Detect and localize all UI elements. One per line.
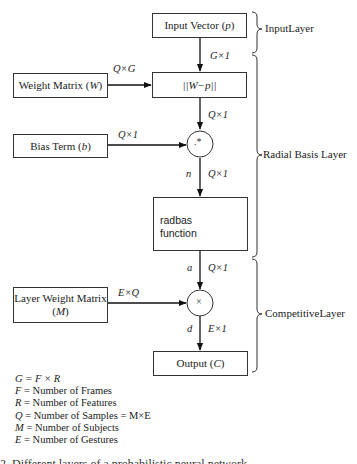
- layer-label-competitive: CompetitiveLayer: [265, 307, 345, 319]
- radbas-line2: function: [160, 227, 197, 240]
- legend-item: M = Number of Subjects: [15, 422, 151, 434]
- legend-item: F = Number of Frames: [15, 385, 151, 397]
- legend-text: = F × R: [23, 373, 61, 384]
- bias-term-box: Bias Term (b): [13, 134, 108, 158]
- legend-item: E = Number of Gestures: [15, 434, 151, 446]
- signal-a: a: [187, 262, 192, 273]
- figure-caption-cutoff: 2. Different layers of a probabilistic n…: [0, 457, 247, 464]
- paren: ): [231, 19, 235, 32]
- paren: ): [221, 357, 225, 370]
- variable-legend: G = F × R F = Number of Frames R = Numbe…: [15, 373, 151, 446]
- legend-text: = Number of Gestures: [21, 434, 117, 445]
- input-vector-label: Input Vector (: [164, 19, 225, 32]
- legend-var: M: [15, 422, 24, 433]
- legend-text: = Number of Subjects: [24, 422, 119, 433]
- layer-label-input: InputLayer: [265, 22, 314, 34]
- legend-var: G: [15, 373, 23, 384]
- distance-label: ||W−p||: [182, 79, 216, 92]
- output-var: C: [213, 357, 220, 370]
- dim-input-to-distance: G×1: [210, 50, 230, 61]
- layer-weight-matrix-var: M: [56, 305, 65, 317]
- signal-d: d: [187, 323, 192, 334]
- dim-bias-to-mult: Q×1: [118, 129, 138, 140]
- dim-distance-to-mult: Q×1: [208, 109, 228, 120]
- legend-text: = Number of Frames: [21, 385, 112, 396]
- radbas-function-box: radbas function: [153, 197, 248, 251]
- legend-var: Q: [15, 410, 23, 421]
- layer-label-radial-basis: Radial Basis Layer: [263, 148, 347, 160]
- weight-matrix-var: W: [89, 79, 98, 92]
- signal-n: n: [186, 168, 191, 179]
- weight-matrix-label: Weight Matrix (: [19, 79, 90, 92]
- dim-mult-to-radbas: Q×1: [208, 168, 228, 179]
- layer-weight-matrix-var-line: (M): [52, 305, 69, 318]
- layer-weight-matrix-box: Layer Weight Matrix (M): [13, 287, 108, 323]
- radbas-label: radbas function: [160, 214, 197, 240]
- legend-text: = Number of Features: [21, 397, 116, 408]
- layer-weight-matrix-label: Layer Weight Matrix: [14, 292, 106, 305]
- radbas-line1: radbas: [160, 214, 197, 227]
- legend-item: R = Number of Features: [15, 397, 151, 409]
- multiply-glyph: ×: [196, 296, 202, 307]
- legend-item: G = F × R: [15, 373, 151, 385]
- legend-text: = Number of Samples = M×E: [23, 410, 151, 421]
- legend-item: Q = Number of Samples = M×E: [15, 410, 151, 422]
- output-label: Output (: [177, 357, 214, 370]
- dim-radbas-to-mult2: Q×1: [208, 262, 228, 273]
- output-box: Output (C): [153, 351, 248, 376]
- bias-term-label: Bias Term (: [30, 140, 82, 153]
- paren: ): [99, 79, 103, 92]
- dim-mult2-to-output: E×1: [208, 323, 227, 334]
- weight-matrix-box: Weight Matrix (W): [13, 73, 108, 98]
- input-vector-box: Input Vector (p): [152, 13, 247, 38]
- distance-box: ||W−p||: [152, 72, 247, 98]
- dim-lw-to-mult2: E×Q: [118, 287, 139, 298]
- dim-weight-to-distance: Q×G: [113, 63, 135, 74]
- paren: ): [87, 140, 91, 153]
- elementwise-multiply-glyph: .*: [194, 136, 202, 147]
